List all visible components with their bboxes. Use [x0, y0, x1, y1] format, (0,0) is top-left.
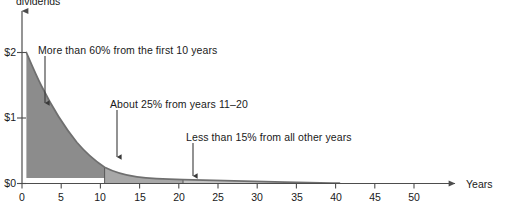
x-tick-label-25: 25 — [206, 191, 230, 203]
x-tick-label-20: 20 — [167, 191, 191, 203]
x-tick-label-45: 45 — [363, 191, 387, 203]
y-tick-label-2: $2 — [0, 46, 16, 58]
y-tick-label-1: $1 — [0, 111, 16, 123]
x-tick-label-35: 35 — [285, 191, 309, 203]
x-tick-label-5: 5 — [49, 191, 73, 203]
annotation-years-11-20: About 25% from years 11–20 — [110, 98, 248, 110]
x-axis-ticks — [22, 184, 414, 189]
x-tick-label-40: 40 — [324, 191, 348, 203]
x-tick-label-0: 0 — [10, 191, 34, 203]
chart-figure: dividends $0 $1 $2 0 5 10 15 20 25 30 35… — [0, 0, 506, 206]
x-tick-label-10: 10 — [88, 191, 112, 203]
y-tick-label-0: $0 — [0, 177, 16, 189]
x-axis-title: Years — [466, 178, 492, 190]
annotation-all-other-years: Less than 15% from all other years — [186, 131, 352, 143]
x-tick-label-50: 50 — [402, 191, 426, 203]
annotation-first-10-years: More than 60% from the first 10 years — [38, 44, 217, 56]
dividend-decay-area-chart — [0, 0, 506, 206]
region-years-11-20 — [105, 167, 183, 183]
x-tick-label-30: 30 — [245, 191, 269, 203]
y-axis-title: dividends — [16, 0, 60, 7]
x-tick-label-15: 15 — [128, 191, 152, 203]
